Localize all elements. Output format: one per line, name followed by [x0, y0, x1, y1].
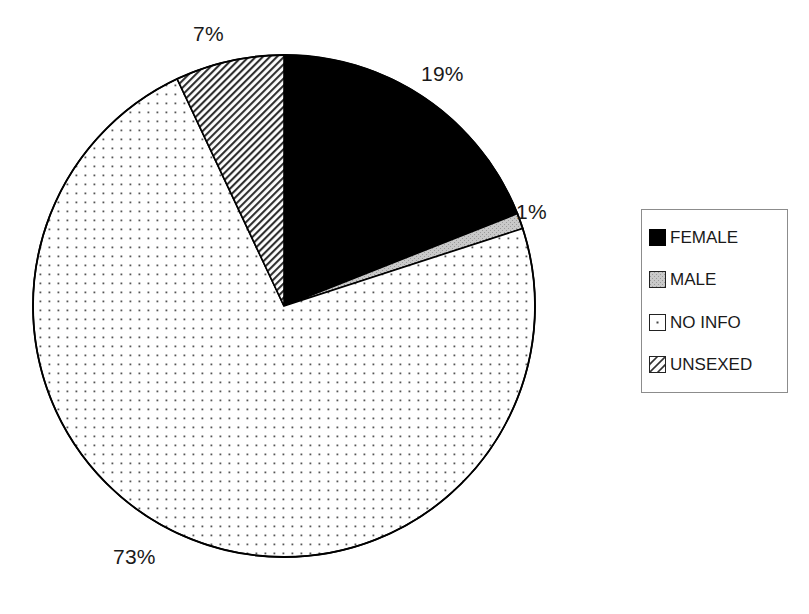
slice-label-unsexed: 7% — [193, 22, 224, 46]
slice-label-no-info: 73% — [113, 545, 156, 569]
hatch-swatch-fill — [650, 357, 665, 372]
sparse-dot-swatch — [649, 314, 666, 331]
legend-label-female: FEMALE — [670, 229, 738, 246]
solid-black-swatch — [649, 229, 666, 246]
legend-label-male: MALE — [670, 271, 716, 288]
legend-label-unsexed: UNSEXED — [670, 356, 752, 373]
legend-item-male[interactable]: MALE — [649, 268, 787, 292]
pie-chart-graphic — [0, 0, 610, 614]
slice-label-female: 19% — [421, 62, 464, 86]
slice-label-male: 1% — [516, 200, 547, 224]
legend-item-female[interactable]: FEMALE — [649, 225, 787, 249]
chart-legend: FEMALE MALE NO INFO — [641, 209, 788, 393]
legend-label-no-info: NO INFO — [670, 314, 741, 331]
legend-item-unsexed[interactable]: UNSEXED — [649, 353, 787, 377]
gray-dot-swatch — [649, 271, 666, 288]
gray-dot-swatch-fill — [650, 272, 665, 287]
sparse-dot-swatch-fill — [650, 315, 665, 330]
legend-list: FEMALE MALE NO INFO — [642, 210, 787, 392]
pie-chart-page: 7% 19% 1% 73% FEMALE MALE — [0, 0, 809, 614]
hatch-swatch — [649, 356, 666, 373]
chart-area: 7% 19% 1% 73% — [0, 0, 610, 614]
legend-item-no-info[interactable]: NO INFO — [649, 310, 787, 334]
